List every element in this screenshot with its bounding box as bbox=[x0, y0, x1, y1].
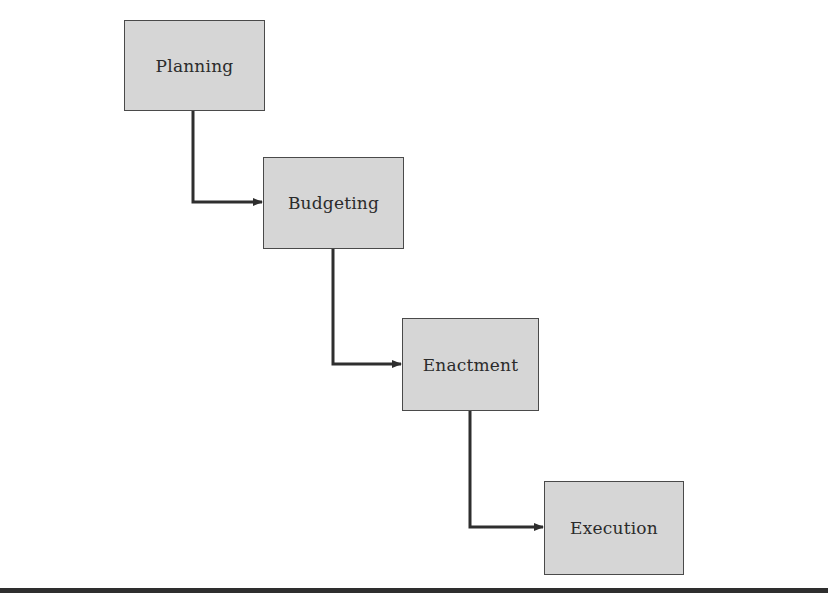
node-budgeting: Budgeting bbox=[263, 157, 404, 249]
arrow-budgeting-to-enactment bbox=[333, 248, 401, 364]
node-label: Enactment bbox=[423, 355, 519, 375]
node-label: Execution bbox=[570, 518, 658, 538]
arrow-planning-to-budgeting bbox=[193, 110, 262, 202]
node-execution: Execution bbox=[544, 481, 684, 575]
node-enactment: Enactment bbox=[402, 318, 539, 411]
node-label: Planning bbox=[156, 56, 234, 76]
node-label: Budgeting bbox=[288, 193, 379, 213]
bottom-rule bbox=[0, 588, 828, 593]
node-planning: Planning bbox=[124, 20, 265, 111]
arrow-enactment-to-execution bbox=[470, 410, 543, 527]
